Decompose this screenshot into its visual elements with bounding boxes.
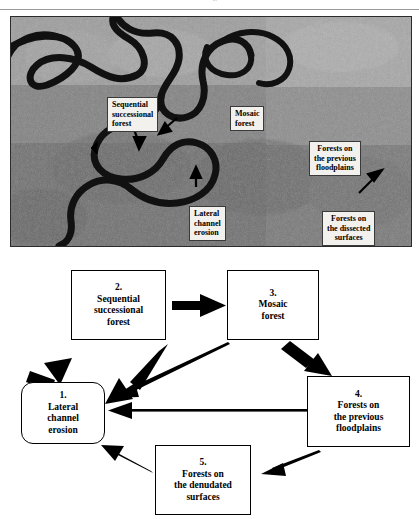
aerial-photo-panel: Sequential successional forest Mosaic fo… bbox=[10, 16, 412, 247]
arrow-box3-to-box1 bbox=[112, 342, 230, 398]
diagram-box-4-forests-previous-floodplains[interactable]: 4. Forests on the previous floodplains bbox=[307, 376, 410, 447]
arrow-box3-to-box4 bbox=[281, 341, 332, 376]
arrow-box4-to-box1 bbox=[108, 402, 307, 419]
diagram-box-3-mosaic-forest[interactable]: 3. Mosaic forest bbox=[227, 270, 319, 340]
arrow-box5-to-box1 bbox=[101, 445, 153, 473]
photo-label-sequential-successional-forest: Sequential successional forest bbox=[107, 97, 158, 132]
arrow-box4-to-box5 bbox=[261, 450, 321, 476]
photo-label-mosaic-forest: Mosaic forest bbox=[230, 106, 264, 131]
photo-label-forests-dissected-surfaces: Forests on the dissected surfaces bbox=[322, 211, 375, 246]
succession-cycle-diagram: 2. Sequential successional forest 3. Mos… bbox=[0, 258, 419, 519]
photo-label-forests-previous-floodplains: Forests on the previous floodplains bbox=[309, 141, 361, 176]
diagram-box-5-forests-denudated-surfaces[interactable]: 5. Forests on the denudated surfaces bbox=[155, 445, 251, 515]
horizontal-rule bbox=[0, 9, 419, 10]
cropped-caption-text: l f g bbox=[0, 0, 419, 1]
photo-label-lateral-channel-erosion: Lateral channel erosion bbox=[189, 206, 226, 241]
diagram-box-2-sequential-successional-forest[interactable]: 2. Sequential successional forest bbox=[71, 270, 166, 340]
arrow-box2-to-box3 bbox=[172, 294, 226, 317]
diagram-box-1-lateral-channel-erosion[interactable]: 1. Lateral channel erosion bbox=[21, 382, 105, 444]
